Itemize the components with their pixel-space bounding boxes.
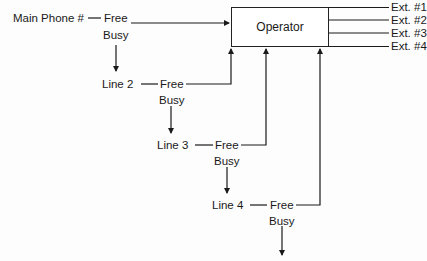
line-4-busy-label: Busy xyxy=(269,215,295,228)
main-busy-label: Busy xyxy=(103,29,129,42)
line-2-label: Line 2 xyxy=(102,78,133,91)
connector-lines xyxy=(0,0,427,261)
main-free-label: Free xyxy=(104,12,128,25)
operator-box: Operator xyxy=(231,7,329,47)
line-2-free-label: Free xyxy=(160,78,184,91)
main-phone-label: Main Phone # xyxy=(13,12,84,25)
line-4-label: Line 4 xyxy=(212,199,243,212)
call-flow-diagram: Operator Main Phone # Free Busy Line 2 F… xyxy=(0,0,427,261)
ext-1-label: Ext. #1 xyxy=(391,1,427,14)
line-3-free-label: Free xyxy=(215,139,239,152)
ext-2-label: Ext. #2 xyxy=(391,14,427,27)
line-2-busy-label: Busy xyxy=(159,94,185,107)
ext-4-label: Ext. #4 xyxy=(391,40,427,53)
ext-3-label: Ext. #3 xyxy=(391,27,427,40)
operator-label: Operator xyxy=(256,20,303,34)
line-3-label: Line 3 xyxy=(157,139,188,152)
line-4-free-label: Free xyxy=(270,199,294,212)
line-3-busy-label: Busy xyxy=(214,155,240,168)
